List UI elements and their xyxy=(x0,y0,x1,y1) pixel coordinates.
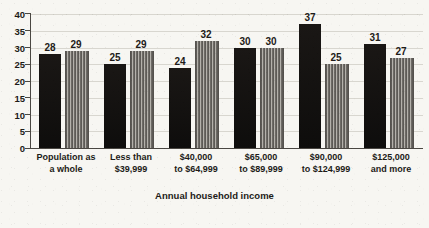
bar-series1-population-as-a-whole[interactable] xyxy=(39,54,61,148)
y-tick-label-15: 15 xyxy=(2,94,25,104)
x-label-line-2: and more xyxy=(348,164,429,176)
bar-series2-125000-and-more[interactable] xyxy=(390,58,414,149)
y-tick-label-30: 30 xyxy=(2,44,25,54)
y-tick-mark-0 xyxy=(25,148,30,149)
bar-series2-population-as-a-whole[interactable] xyxy=(65,51,89,148)
bar-series1-40000-to-64999[interactable] xyxy=(169,68,191,148)
y-tick-label-5: 5 xyxy=(2,127,25,137)
y-tick-label-35: 35 xyxy=(2,27,25,37)
value-label-series2-population-as-a-whole: 29 xyxy=(61,40,91,50)
x-axis-category-labels: Population as a whole Less than $39,999 … xyxy=(31,152,423,186)
value-label-series2-less-than-39999: 29 xyxy=(126,40,156,50)
bar-series1-125000-and-more[interactable] xyxy=(364,44,386,148)
y-tick-mark-30 xyxy=(25,47,30,48)
y-tick-mark-25 xyxy=(25,64,30,65)
bar-series2-40000-to-64999[interactable] xyxy=(195,41,219,148)
y-tick-label-40: 40 xyxy=(2,10,25,20)
y-tick-label-25: 25 xyxy=(2,60,25,70)
y-tick-mark-20 xyxy=(25,81,30,82)
value-label-series2-65000-to-89999: 30 xyxy=(256,37,286,47)
y-tick-mark-15 xyxy=(25,97,30,98)
y-tick-label-0: 0 xyxy=(2,144,25,154)
bar-group-65000-to-89999: 30 30 xyxy=(234,14,296,148)
y-tick-mark-5 xyxy=(25,131,30,132)
bar-series1-65000-to-89999[interactable] xyxy=(234,48,256,149)
bar-group-less-than-39999: 25 29 xyxy=(104,14,166,148)
bar-chart: 40 35 30 25 20 15 10 5 0 xyxy=(0,0,429,228)
value-label-series2-90000-to-124999: 25 xyxy=(321,53,351,63)
bar-series1-less-than-39999[interactable] xyxy=(104,64,126,148)
bar-series2-less-than-39999[interactable] xyxy=(130,51,154,148)
value-label-series1-40000-to-64999: 24 xyxy=(165,57,195,67)
y-tick-mark-10 xyxy=(25,114,30,115)
bar-series2-65000-to-89999[interactable] xyxy=(260,48,284,149)
x-axis-title: Annual household income xyxy=(0,190,429,201)
bar-series2-90000-to-124999[interactable] xyxy=(325,64,349,148)
x-label-125000-and-more: $125,000 and more xyxy=(348,152,429,175)
value-label-series1-125000-and-more: 31 xyxy=(360,33,390,43)
value-label-series2-125000-and-more: 27 xyxy=(386,47,416,57)
bar-group-125000-and-more: 31 27 xyxy=(364,14,426,148)
x-axis-line xyxy=(31,148,423,149)
y-tick-mark-35 xyxy=(25,30,30,31)
value-label-series1-90000-to-124999: 37 xyxy=(295,13,325,23)
value-label-series1-less-than-39999: 25 xyxy=(100,53,130,63)
bar-series1-90000-to-124999[interactable] xyxy=(299,24,321,148)
y-tick-label-20: 20 xyxy=(2,77,25,87)
x-label-line-1: $125,000 xyxy=(348,152,429,164)
bar-group-population-as-a-whole: 28 29 xyxy=(39,14,101,148)
y-tick-mark-40 xyxy=(25,13,30,14)
value-label-series2-40000-to-64999: 32 xyxy=(191,30,221,40)
plot-area: 28 29 25 29 24 32 30 30 37 xyxy=(31,14,423,148)
bar-group-40000-to-64999: 24 32 xyxy=(169,14,231,148)
y-tick-label-10: 10 xyxy=(2,111,25,121)
bar-group-90000-to-124999: 37 25 xyxy=(299,14,361,148)
